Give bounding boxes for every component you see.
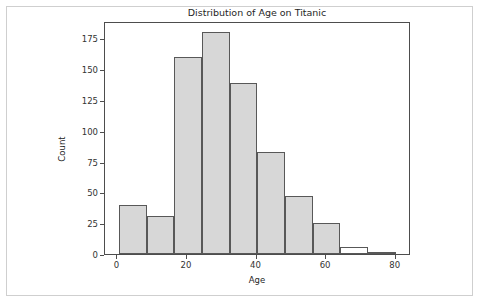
histogram-bar (368, 252, 396, 254)
x-axis-label: Age (104, 275, 410, 285)
histogram-bar (202, 32, 230, 254)
histogram-bar (285, 196, 313, 254)
y-axis-label: Count (57, 136, 67, 161)
y-axis-label-wrapper: Count (54, 22, 68, 255)
histogram-bar (230, 83, 258, 254)
figure: Distribution of Age on Titanic 025507510… (0, 0, 479, 302)
plot-area (104, 22, 410, 255)
histogram-bar (147, 216, 175, 254)
page-title: Distribution of Age on Titanic (104, 6, 410, 19)
histogram-bar (313, 223, 341, 254)
histogram-bar (340, 247, 368, 254)
histogram-bar (119, 205, 147, 254)
histogram-bar (174, 57, 202, 254)
histogram-bar (257, 152, 285, 254)
